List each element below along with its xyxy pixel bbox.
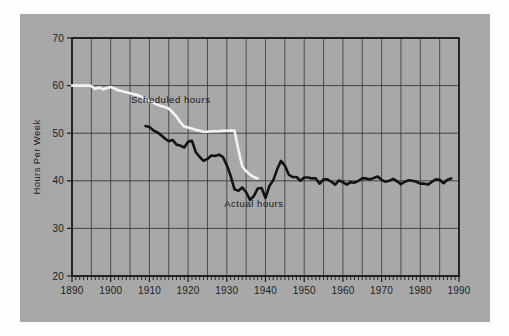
x-tick-label: 1900 (99, 285, 122, 296)
y-axis-title: Hours Per Week (31, 119, 42, 194)
chart-page: 2030405060701890190019101920193019401950… (0, 0, 509, 336)
y-tick-label: 70 (52, 33, 64, 44)
line-chart: 2030405060701890190019101920193019401950… (0, 0, 509, 336)
x-tick-label: 1960 (331, 285, 354, 296)
series-line-actual-hours (146, 126, 452, 200)
series-annotation: Scheduled hours (131, 94, 211, 105)
x-tick-label: 1990 (447, 285, 470, 296)
x-tick-label: 1970 (370, 285, 393, 296)
series-annotation: Actual hours (224, 198, 283, 209)
x-tick-label: 1950 (293, 285, 316, 296)
y-tick-label: 30 (52, 223, 64, 234)
x-tick-label: 1890 (60, 285, 83, 296)
x-tick-label: 1910 (138, 285, 161, 296)
y-tick-label: 40 (52, 175, 64, 186)
x-tick-label: 1920 (177, 285, 200, 296)
y-tick-label: 20 (52, 271, 64, 282)
x-tick-label: 1930 (215, 285, 238, 296)
y-tick-label: 60 (52, 80, 64, 91)
x-tick-label: 1980 (409, 285, 432, 296)
x-tick-label: 1940 (254, 285, 277, 296)
y-tick-label: 50 (52, 128, 64, 139)
